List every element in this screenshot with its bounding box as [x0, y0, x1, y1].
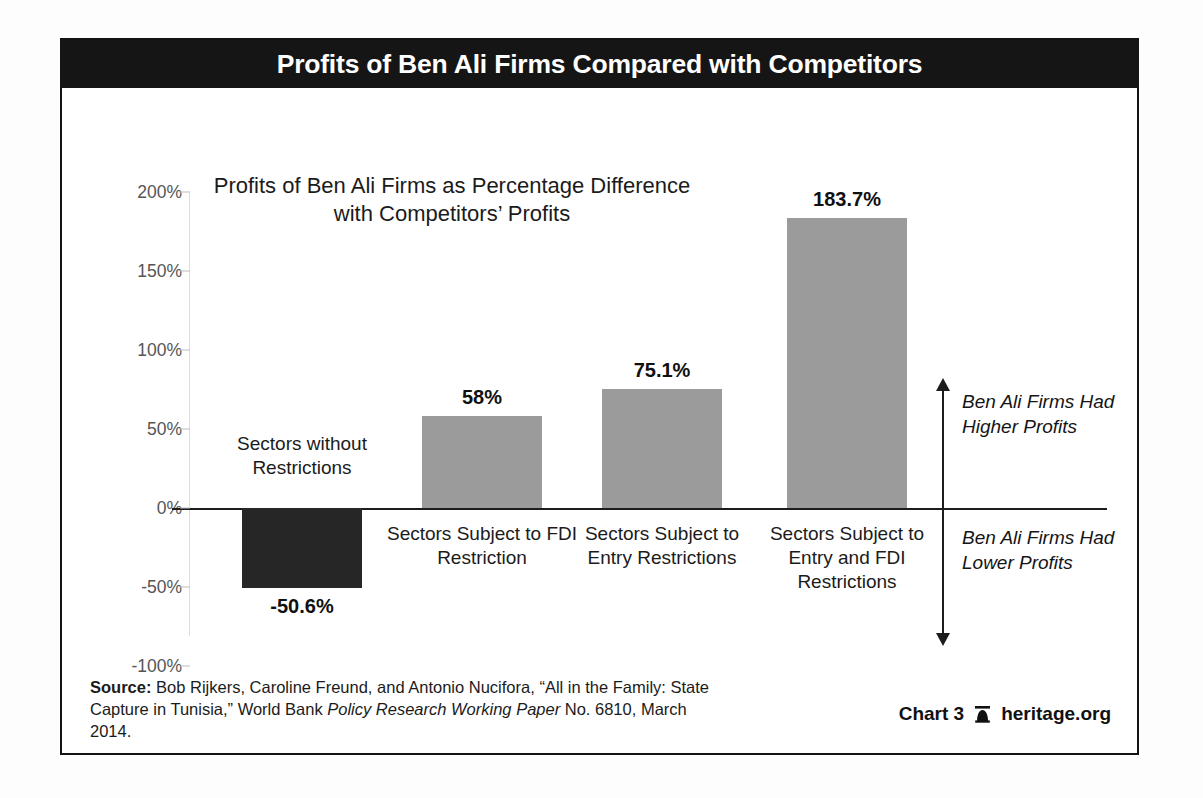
bar-category-label: Sectors Subject to Entry and FDI Restric… [747, 522, 947, 594]
bar-value-label: 183.7% [813, 188, 881, 211]
title-banner: Profits of Ben Ali Firms Compared with C… [62, 40, 1137, 88]
y-axis-tick-label: 150% [102, 261, 182, 282]
page-title: Profits of Ben Ali Firms Compared with C… [277, 49, 923, 80]
site-url: heritage.org [1001, 703, 1111, 725]
y-axis-tick-mark [180, 271, 190, 272]
y-axis-tick-label: 0% [102, 498, 182, 519]
chart-number: Chart 3 [899, 703, 964, 725]
y-axis-labels: 200%150%100%50%0%-50%-100% [82, 88, 182, 753]
y-axis-tick-mark [180, 350, 190, 351]
chart-page: Profits of Ben Ali Firms Compared with C… [0, 0, 1203, 798]
bar-category-label: Sectors Subject to FDI Restriction [382, 522, 582, 570]
bar [242, 508, 362, 588]
chart-subtitle: Profits of Ben Ali Firms as Percentage D… [212, 172, 692, 228]
bar-value-label: 58% [462, 386, 502, 409]
y-axis-tick-label: 50% [102, 419, 182, 440]
annotation-lower-profits: Ben Ali Firms Had Lower Profits [962, 526, 1137, 575]
bar-category-label: Sectors without Restrictions [202, 432, 402, 480]
heritage-bell-icon [973, 706, 992, 723]
source-note: Source: Bob Rijkers, Caroline Freund, an… [90, 677, 730, 743]
arrow-up-icon [936, 378, 950, 391]
bar-value-label: -50.6% [270, 595, 333, 618]
chart-footer: Source: Bob Rijkers, Caroline Freund, an… [62, 657, 1137, 753]
arrow-down-icon [936, 633, 950, 646]
source-publication-title: Policy Research Working Paper [327, 700, 560, 718]
chart-frame: Profits of Ben Ali Firms Compared with C… [60, 38, 1139, 755]
y-axis-tick-label: -50% [102, 577, 182, 598]
bar-category-label: Sectors Subject to Entry Restrictions [562, 522, 762, 570]
source-label: Source: [90, 678, 151, 696]
bar [602, 389, 722, 508]
plot-area: Profits of Ben Ali Firms as Percentage D… [62, 88, 1137, 753]
y-axis-line [189, 192, 190, 636]
y-axis-tick-label: 100% [102, 340, 182, 361]
chart-credit: Chart 3 heritage.org [899, 703, 1111, 725]
y-axis-tick-label: 200% [102, 182, 182, 203]
y-axis-tick-mark [180, 508, 190, 509]
bar [422, 416, 542, 508]
annotation-higher-profits: Ben Ali Firms Had Higher Profits [962, 390, 1137, 439]
y-axis-tick-mark [180, 192, 190, 193]
bar-value-label: 75.1% [634, 359, 691, 382]
direction-arrow-axis [942, 390, 944, 636]
bar [787, 218, 907, 508]
y-axis-tick-mark [180, 587, 190, 588]
y-axis-tick-mark [180, 429, 190, 430]
